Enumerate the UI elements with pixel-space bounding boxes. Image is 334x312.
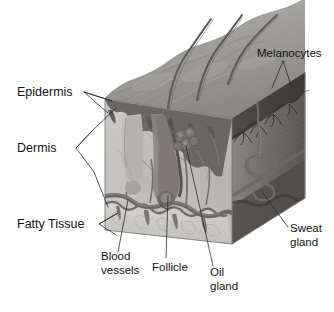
label-melanocytes: Melanocytes	[257, 47, 322, 59]
svg-text:Sweat: Sweat	[290, 222, 323, 234]
skin-block	[100, 0, 312, 250]
skin-cross-section-diagram: Epidermis Dermis Fatty Tissue Melanocyte…	[0, 0, 334, 312]
leader-dermis	[76, 131, 94, 172]
label-follicle: Follicle	[152, 261, 188, 273]
svg-text:Oil: Oil	[210, 266, 224, 278]
label-blood-vessels: Blood vessels	[101, 250, 140, 276]
svg-text:vessels: vessels	[101, 264, 140, 276]
svg-text:Blood: Blood	[101, 250, 130, 262]
svg-text:gland: gland	[210, 280, 238, 292]
skin-diagram-svg: Epidermis Dermis Fatty Tissue Melanocyte…	[0, 0, 334, 312]
label-epidermis: Epidermis	[17, 85, 73, 99]
label-fatty-tissue: Fatty Tissue	[17, 217, 84, 231]
label-dermis: Dermis	[17, 141, 57, 155]
svg-text:gland: gland	[290, 236, 318, 248]
label-sweat-gland: Sweat gland	[290, 222, 323, 248]
label-oil-gland: Oil gland	[210, 266, 238, 292]
